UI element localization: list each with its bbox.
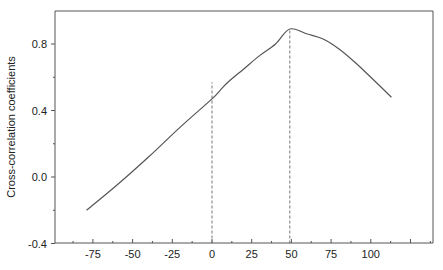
- x-tick-label: 25: [246, 248, 258, 260]
- x-tick-label: -50: [125, 248, 141, 260]
- dashed-reference-lines: [212, 29, 290, 243]
- x-tick-label: 0: [209, 248, 215, 260]
- y-tick-label: 0.4: [32, 105, 47, 117]
- plot-frame: [55, 11, 433, 243]
- y-tick-label: 0.8: [32, 38, 47, 50]
- y-axis-title: Cross-correlation coefficients: [5, 56, 17, 198]
- y-tick-label: 0.0: [32, 171, 47, 183]
- x-tick-label: -75: [85, 248, 101, 260]
- x-tick-label: 75: [325, 248, 337, 260]
- x-axis-ticks: -75-50-250255075100: [73, 239, 430, 260]
- correlation-curve: [87, 29, 392, 211]
- x-tick-label: -25: [164, 248, 180, 260]
- y-tick-label: -0.4: [28, 238, 47, 250]
- x-tick-label: 50: [285, 248, 297, 260]
- y-axis-ticks: -0.40.00.40.8: [28, 38, 55, 250]
- x-tick-label: 100: [362, 248, 380, 260]
- cross-correlation-chart: -75-50-250255075100 -0.40.00.40.8 Cross-…: [0, 0, 443, 270]
